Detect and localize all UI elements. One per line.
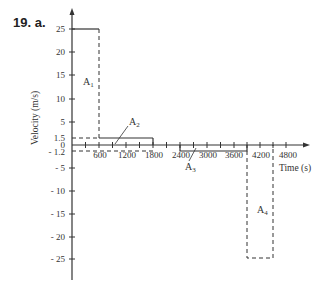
y-tick-label: 25: [56, 24, 66, 34]
a2-pointer: [115, 126, 128, 144]
y-tick-label: 10: [56, 94, 66, 104]
segment-a4-dashed: [247, 145, 273, 258]
y-tick-label: - 5: [55, 163, 65, 173]
y-tick-label: - 25: [51, 254, 66, 264]
x-tick-label: 4800: [279, 150, 298, 160]
area-label-a4: A4: [257, 204, 268, 217]
area-label-a2: A2: [129, 116, 140, 129]
y-axis-title: Velocity (m/s): [30, 91, 41, 145]
y-tick-label: 20: [56, 47, 66, 57]
y-tick-label: - 15: [51, 209, 66, 219]
y-tick-label: - 1.2: [49, 147, 66, 157]
x-tick-label: 1800: [145, 150, 164, 160]
velocity-time-chart: 25 20 15 10 5 1.5 0 - 1.2 - 5 - 10 - 15 …: [0, 0, 329, 293]
y-tick-label: - 10: [51, 186, 66, 196]
y-axis-arrow-icon: [70, 8, 75, 15]
y-tick-label: 15: [56, 70, 66, 80]
area-label-a1: A1: [83, 76, 94, 89]
y-tick-label: - 20: [51, 232, 66, 242]
x-axis-arrow-icon: [303, 143, 310, 148]
a3-pointer: [189, 148, 196, 161]
y-tick-label: 5: [61, 117, 66, 127]
x-axis-title: Time (s): [279, 163, 311, 174]
area-label-a3: A3: [185, 161, 196, 174]
x-tick-label: 1200: [118, 150, 137, 160]
x-tick-label: 4200: [252, 150, 271, 160]
